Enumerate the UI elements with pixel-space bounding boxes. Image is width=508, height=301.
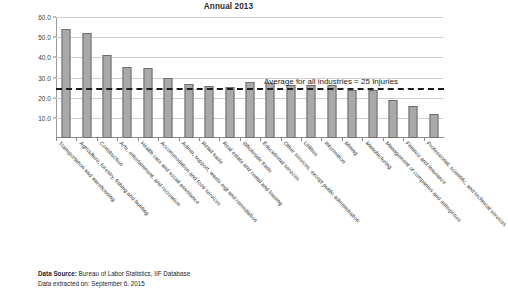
bar[interactable]	[245, 82, 254, 138]
bar[interactable]	[266, 83, 275, 138]
bar-slot	[138, 17, 158, 138]
bar-slot	[76, 17, 96, 138]
bar[interactable]	[184, 84, 193, 138]
x-axis-label: Professional, scientific, and technical …	[425, 140, 507, 227]
average-line-label: Average for all industries = 25 Injuries	[264, 77, 398, 86]
bar-slot	[219, 17, 239, 138]
bar-slot	[199, 17, 219, 138]
x-axis-label: Educational services	[262, 140, 301, 182]
bar[interactable]	[286, 85, 295, 138]
bar-slot	[158, 17, 178, 138]
bar[interactable]	[307, 85, 316, 138]
bar[interactable]	[327, 85, 336, 138]
y-axis-tick-label: 30.0	[38, 74, 51, 81]
bar[interactable]	[348, 90, 357, 138]
x-axis-label: Other services, except public administra…	[282, 140, 360, 224]
bar-slot	[424, 17, 444, 138]
plot-area: 10.020.030.040.050.060.0 Average for all…	[56, 17, 444, 138]
x-axis-label: Utilities	[303, 140, 320, 157]
bar[interactable]	[82, 33, 91, 138]
data-source-label: Data Source:	[38, 270, 77, 277]
bar-slot	[97, 17, 117, 138]
bar[interactable]	[225, 87, 234, 138]
x-axis-label: Admin, support, waste mgt and remediatio…	[180, 140, 258, 223]
data-extracted-line: Data extracted on: September 6, 2015	[38, 279, 190, 289]
bar-slot	[403, 17, 423, 138]
y-axis-tick-label: 20.0	[38, 94, 51, 101]
bar[interactable]	[123, 67, 132, 138]
y-axis-tick-label: 10.0	[38, 114, 51, 121]
average-line	[56, 88, 444, 90]
bar[interactable]	[143, 68, 152, 138]
bar[interactable]	[164, 78, 173, 139]
x-axis-label: Mining	[344, 140, 360, 156]
bar-slot	[56, 17, 76, 138]
bar-slot	[240, 17, 260, 138]
bar-slot	[179, 17, 199, 138]
bar[interactable]	[205, 86, 214, 138]
bar-slot	[117, 17, 137, 138]
bar[interactable]	[62, 29, 71, 138]
y-axis-tick-label: 40.0	[38, 54, 51, 61]
bar[interactable]	[429, 114, 438, 138]
y-axis-tick-label: 60.0	[38, 14, 51, 21]
x-axis-label: Finance and insurance	[405, 140, 448, 186]
x-axis-labels-group: Transportation and warehousingAgricultur…	[56, 140, 456, 260]
bar[interactable]	[388, 100, 397, 138]
x-axis-label: Management of companies and enterprises	[385, 140, 463, 223]
bar[interactable]	[409, 106, 418, 138]
data-source-line: Data Source: Bureau of Labor Statistics,…	[38, 269, 190, 279]
data-source-value: Bureau of Labor Statistics, IIF Database	[77, 270, 190, 277]
footer-notes: Data Source: Bureau of Labor Statistics,…	[38, 269, 190, 289]
y-axis-tick-label: 50.0	[38, 34, 51, 41]
chart-subtitle: Annual 2013	[0, 2, 457, 11]
bar[interactable]	[368, 90, 377, 138]
bar[interactable]	[103, 55, 112, 138]
